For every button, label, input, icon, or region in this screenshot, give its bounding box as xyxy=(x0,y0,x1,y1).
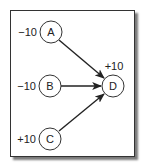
node-c-value: +10 xyxy=(17,133,36,145)
node-b-value: −10 xyxy=(17,80,36,92)
node-b-label: B xyxy=(46,80,53,92)
node-a-value: −10 xyxy=(18,26,37,38)
graph-diagram: A −10 B −10 C +10 D +10 xyxy=(0,0,143,167)
node-a: A −10 xyxy=(18,21,62,43)
node-d: D +10 xyxy=(102,60,124,97)
edge-a-to-d xyxy=(59,40,104,78)
node-b: B −10 xyxy=(17,75,61,97)
node-d-value: +10 xyxy=(105,60,124,72)
node-d-label: D xyxy=(109,80,117,92)
edge-c-to-d xyxy=(59,94,104,131)
node-a-label: A xyxy=(47,26,55,38)
node-c-label: C xyxy=(46,133,54,145)
node-c: C +10 xyxy=(17,128,61,150)
